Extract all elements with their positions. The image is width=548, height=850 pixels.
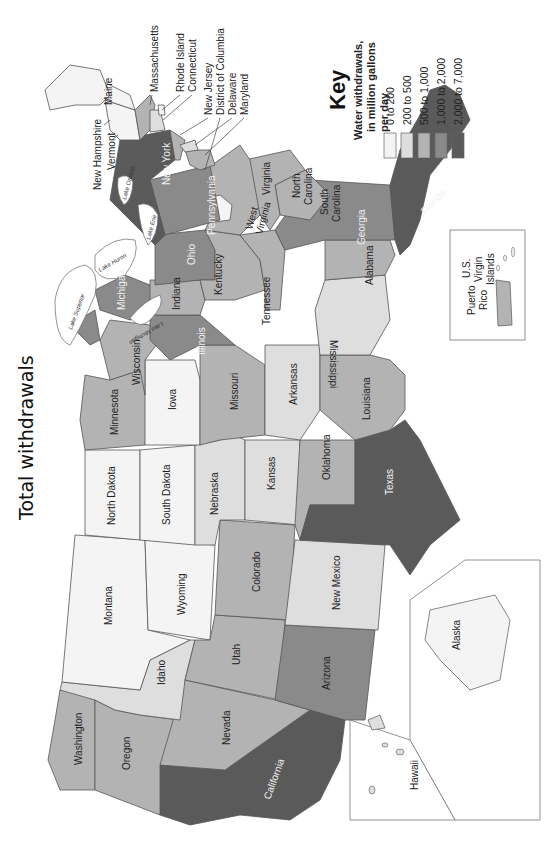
state-mississippi bbox=[315, 275, 390, 355]
label-connecticut: Connecticut bbox=[187, 39, 198, 92]
key-swatch-2 bbox=[418, 133, 430, 158]
state-ohio bbox=[155, 230, 215, 285]
label-rhode-island: Rhode Island bbox=[175, 33, 186, 92]
virgin-island bbox=[504, 255, 507, 261]
water-withdrawals-map: Total withdrawals bbox=[0, 0, 548, 850]
virgin-island bbox=[497, 265, 500, 271]
label-alabama: Alabama bbox=[364, 245, 375, 285]
label-louisiana: Louisiana bbox=[361, 377, 372, 420]
label-utah: Utah bbox=[231, 644, 242, 665]
hawaii-island bbox=[396, 749, 404, 755]
key-label-1: 200 to 500 bbox=[401, 75, 413, 125]
virgin-island bbox=[512, 247, 515, 257]
label-vermont: Vermont bbox=[106, 133, 117, 170]
key-swatch-4 bbox=[452, 133, 464, 158]
key-subtitle-line-2: in million gallons bbox=[365, 42, 377, 132]
state-rhode-island bbox=[158, 105, 165, 115]
label-maryland: Maryland bbox=[239, 74, 250, 115]
label-georgia: Georgia bbox=[356, 209, 367, 245]
map-title: Total withdrawals bbox=[15, 355, 37, 521]
label-north-dakota: North Dakota bbox=[106, 466, 117, 525]
label-nevada: Nevada bbox=[221, 710, 232, 745]
label-ohio: Ohio bbox=[186, 243, 197, 265]
label-minnesota: Minnesota bbox=[109, 388, 120, 435]
label-alaska: Alaska bbox=[451, 620, 462, 650]
label-michigan: Michigan bbox=[116, 270, 127, 310]
label-south-carolina-1: South bbox=[319, 189, 330, 215]
key-label-0: 0 to 200 bbox=[384, 87, 396, 125]
label-illinois: Illinois bbox=[196, 327, 207, 355]
label-arizona: Arizona bbox=[321, 656, 332, 690]
label-kentucky: Kentucky bbox=[213, 254, 224, 295]
label-iowa: Iowa bbox=[167, 388, 178, 410]
key-swatch-3 bbox=[435, 133, 447, 158]
key-swatch-1 bbox=[401, 133, 413, 158]
key-heading: Key bbox=[325, 69, 350, 110]
label-idaho: Idaho bbox=[156, 660, 167, 685]
label-indiana: Indiana bbox=[171, 277, 182, 310]
state-maine bbox=[45, 65, 110, 110]
label-nebraska: Nebraska bbox=[209, 472, 220, 515]
label-delaware: Delaware bbox=[227, 72, 238, 115]
state-alabama bbox=[325, 240, 395, 280]
key-swatch-0 bbox=[384, 133, 396, 158]
label-missouri: Missouri bbox=[229, 373, 240, 410]
label-kansas: Kansas bbox=[266, 457, 277, 490]
key-label-2: 500 to 1,000 bbox=[418, 66, 430, 125]
label-north-carolina-2: Carolina bbox=[303, 167, 314, 205]
label-new-york: New York bbox=[161, 142, 172, 185]
label-north-carolina-1: North bbox=[291, 174, 302, 198]
label-maine: Maine bbox=[103, 77, 114, 105]
state-puerto-rico bbox=[496, 280, 512, 326]
label-hawaii: Hawaii bbox=[409, 760, 420, 790]
label-wyoming: Wyoming bbox=[176, 573, 187, 615]
label-usvi-1: U.S. bbox=[461, 259, 472, 278]
label-south-dakota: South Dakota bbox=[161, 464, 172, 525]
label-massachusetts: Massachusetts bbox=[149, 25, 160, 92]
label-wisconsin: Wisconsin bbox=[131, 339, 142, 385]
label-colorado: Colorado bbox=[251, 551, 262, 592]
label-tennessee: Tennessee bbox=[261, 276, 272, 325]
label-pennsylvania: Pennsylvania bbox=[206, 175, 217, 235]
label-south-carolina-2: Carolina bbox=[331, 184, 342, 222]
label-dc: District of Columbia bbox=[215, 28, 226, 115]
hawaii-island bbox=[382, 743, 388, 747]
label-new-mexico: New Mexico bbox=[331, 555, 342, 610]
state-washington bbox=[48, 690, 95, 790]
map-key: Key Water withdrawals, in million gallon… bbox=[325, 41, 464, 158]
label-puerto-rico-2: Rico bbox=[478, 290, 489, 310]
hawaii-island bbox=[369, 786, 375, 794]
label-usvi-2: Virgin bbox=[473, 257, 484, 282]
label-montana: Montana bbox=[103, 586, 114, 625]
label-virginia: Virginia bbox=[261, 161, 272, 195]
label-usvi-3: Islands bbox=[485, 253, 496, 285]
label-oklahoma: Oklahoma bbox=[321, 434, 332, 480]
label-mississippi: Mississippi bbox=[328, 340, 339, 388]
label-texas: Texas bbox=[384, 469, 395, 495]
key-label-3: 1,000 to 2,000 bbox=[435, 58, 447, 125]
label-oregon: Oregon bbox=[121, 737, 132, 770]
label-new-jersey: New Jersey bbox=[203, 63, 214, 115]
key-subtitle-line-1: Water withdrawals, bbox=[352, 41, 364, 140]
label-new-hampshire: New Hampshire bbox=[92, 118, 103, 190]
label-puerto-rico-1: Puerto bbox=[466, 285, 477, 315]
label-arkansas: Arkansas bbox=[288, 363, 299, 405]
label-washington: Washington bbox=[73, 713, 84, 765]
key-label-4: 2,000 to 7,000 bbox=[452, 58, 464, 125]
